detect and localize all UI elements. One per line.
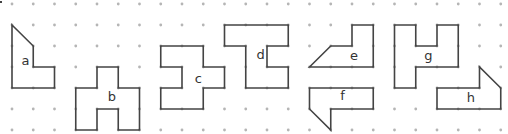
shape-outline [161,46,225,109]
shape-label: a [22,53,30,68]
shape-b: b [76,67,140,130]
shape-a: a [12,25,55,88]
dot-grid-canvas: abcdefgh [0,0,508,134]
shape-g: g [395,25,459,88]
shape-e: e [310,25,374,67]
shape-d: d [225,25,289,88]
shape-h: h [437,67,501,109]
shape-label: c [195,71,202,86]
shape-label: b [108,89,116,104]
shape-label: d [256,47,264,62]
shape-f: f [310,88,374,130]
shape-outline [12,25,55,88]
shape-label: e [350,48,358,63]
dot-grid-diagram: abcdefgh [0,0,508,134]
shape-outline [310,25,374,67]
shape-label: h [467,90,475,105]
shape-c: c [161,46,225,109]
shape-label: g [424,48,432,63]
shape-label: f [340,88,345,103]
